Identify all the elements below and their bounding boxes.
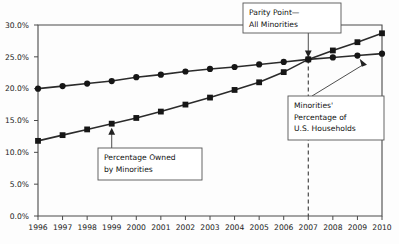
x-tick-label: 1999 (102, 223, 121, 232)
data-point-square (133, 115, 139, 121)
y-tick-label: 10.0% (5, 148, 29, 157)
leader-minorities-households (312, 65, 363, 96)
data-point-circle (354, 52, 360, 58)
y-axis-tick-labels: 0.0%5.0%10.0%15.0%20.0%25.0%30.0% (5, 21, 29, 221)
annotation-text-minorities-households: Percentage of (294, 113, 347, 122)
data-point-circle (84, 80, 90, 86)
data-point-circle (231, 64, 237, 70)
data-point-circle (35, 86, 41, 92)
x-tick-label: 1996 (28, 223, 47, 232)
arrowhead-percentage-owned (108, 128, 115, 135)
data-point-square (183, 102, 189, 108)
y-tick-label: 30.0% (5, 21, 29, 30)
y-axis-tick-marks (34, 25, 38, 216)
x-tick-label: 2008 (323, 223, 342, 232)
x-tick-label: 2009 (348, 223, 367, 232)
data-point-circle (281, 59, 287, 65)
data-point-square (158, 109, 164, 115)
x-axis-tick-marks (38, 216, 382, 220)
chart-container: 0.0%5.0%10.0%15.0%20.0%25.0%30.0% 199619… (0, 0, 399, 244)
data-point-square (281, 69, 287, 75)
y-tick-label: 0.0% (10, 212, 29, 221)
data-point-circle (109, 78, 115, 84)
data-point-square (109, 121, 115, 127)
annotation-text-parity-point: All Minorities (249, 20, 298, 29)
y-tick-label: 25.0% (5, 53, 29, 62)
data-point-circle (133, 74, 139, 80)
data-point-square (84, 127, 90, 133)
arrowhead-minorities-households (360, 59, 367, 67)
data-point-square (60, 132, 66, 138)
data-point-square (35, 138, 41, 144)
arrowhead-parity-point (305, 50, 312, 57)
x-tick-label: 1997 (53, 223, 72, 232)
x-tick-label: 2005 (249, 223, 268, 232)
x-tick-label: 2010 (372, 223, 391, 232)
data-point-circle (330, 54, 336, 60)
data-point-circle (256, 61, 262, 67)
chart-plot: 0.0%5.0%10.0%15.0%20.0%25.0%30.0% 199619… (0, 0, 399, 244)
data-point-circle (59, 83, 65, 89)
x-tick-label: 2000 (127, 223, 146, 232)
x-axis-tick-labels: 1996199719981999200020012002200320042005… (28, 223, 391, 232)
x-tick-label: 2002 (176, 223, 195, 232)
annotation-text-minorities-households: U.S. Households (294, 124, 356, 133)
data-point-square (379, 30, 385, 36)
annotation-text-percentage-owned: by Minorities (104, 165, 153, 174)
data-point-square (207, 95, 213, 101)
data-point-circle (207, 66, 213, 72)
x-tick-label: 2003 (200, 223, 219, 232)
x-tick-label: 2007 (299, 223, 318, 232)
x-tick-label: 1998 (77, 223, 96, 232)
data-point-square (232, 87, 238, 93)
data-point-square (256, 79, 262, 85)
x-tick-label: 2006 (274, 223, 293, 232)
annotation-text-parity-point: Parity Point— (249, 8, 300, 17)
x-tick-label: 2004 (225, 223, 244, 232)
data-point-square (330, 48, 336, 54)
annotation-text-percentage-owned: Percentage Owned (104, 153, 176, 162)
data-point-circle (158, 72, 164, 78)
data-point-circle (379, 51, 385, 57)
y-tick-label: 5.0% (10, 180, 29, 189)
data-point-circle (182, 68, 188, 74)
data-point-square (355, 39, 361, 45)
x-tick-label: 2001 (151, 223, 170, 232)
y-tick-label: 15.0% (5, 116, 29, 125)
annotation-callouts: Parity Point—All MinoritiesMinorities'Pe… (98, 3, 384, 180)
y-tick-label: 20.0% (5, 84, 29, 93)
annotation-text-minorities-households: Minorities' (294, 101, 333, 110)
